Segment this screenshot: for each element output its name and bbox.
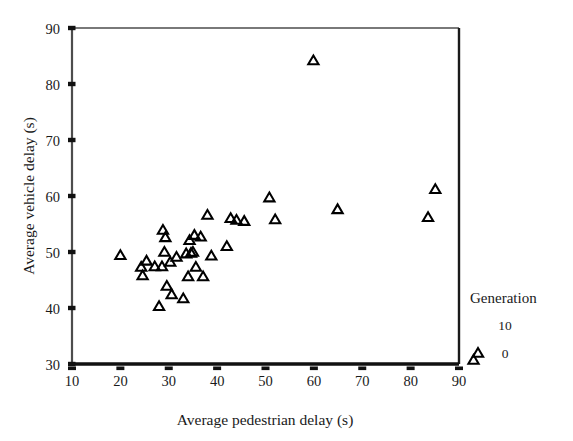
data-point-marker <box>264 193 274 202</box>
data-point-marker <box>162 281 172 290</box>
y-tick-mark <box>68 306 76 310</box>
x-tick-label: 20 <box>113 373 128 389</box>
legend-entry-label-0: 0 <box>502 346 509 361</box>
data-point-marker <box>171 252 181 261</box>
y-tick-mark <box>68 26 76 30</box>
y-tick-label: 90 <box>46 21 61 37</box>
data-point-marker <box>270 214 280 223</box>
x-tick-label: 70 <box>355 373 370 389</box>
data-point-marker <box>191 262 201 271</box>
data-point-marker <box>239 216 249 225</box>
y-tick-label: 60 <box>46 189 61 205</box>
data-point-marker <box>198 272 208 281</box>
data-point-marker <box>206 251 216 260</box>
chart-svg: 102030405060708090 30405060708090 Averag… <box>0 0 573 441</box>
x-tick-mark <box>262 367 270 371</box>
data-point-marker <box>183 272 193 281</box>
x-tick-label: 10 <box>65 373 80 389</box>
data-point-marker <box>178 293 188 302</box>
legend: Generation 10 0 <box>470 290 537 361</box>
x-tick-mark <box>455 367 463 371</box>
data-point-marker <box>202 210 212 219</box>
data-point-marker <box>222 241 232 250</box>
legend-triangle-glyph <box>473 348 483 357</box>
y-tick-label: 80 <box>46 77 61 93</box>
data-point-marker <box>159 247 169 256</box>
data-point-marker <box>141 256 151 265</box>
y-tick-mark <box>68 194 76 198</box>
y-tick-mark <box>68 138 76 142</box>
x-tick-label: 50 <box>258 373 273 389</box>
data-point-marker <box>308 55 318 64</box>
plot-frame <box>72 28 459 364</box>
data-point-marker <box>423 212 433 221</box>
x-tick-mark <box>407 367 415 371</box>
x-tick-label: 30 <box>162 373 177 389</box>
x-axis-ticks: 102030405060708090 <box>65 367 467 390</box>
y-tick-label: 70 <box>46 133 61 149</box>
y-tick-mark <box>68 82 76 86</box>
scatter-chart: 102030405060708090 30405060708090 Averag… <box>0 0 573 441</box>
data-point-marker <box>430 184 440 193</box>
x-tick-mark <box>116 367 124 371</box>
y-tick-label: 40 <box>46 301 61 317</box>
data-point-marker <box>332 204 342 213</box>
x-tick-label: 40 <box>210 373 225 389</box>
legend-entry-label-10: 10 <box>498 318 512 333</box>
y-tick-label: 30 <box>46 357 61 373</box>
y-axis-title: Average vehicle delay (s) <box>20 117 38 275</box>
data-point-marker <box>154 301 164 310</box>
y-tick-label: 50 <box>46 245 61 261</box>
x-tick-label: 90 <box>452 373 467 389</box>
x-tick-mark <box>213 367 221 371</box>
data-point-marker <box>115 250 125 259</box>
x-tick-mark <box>310 367 318 371</box>
x-tick-label: 60 <box>307 373 322 389</box>
legend-marker-triangle <box>473 348 483 357</box>
x-tick-label: 80 <box>403 373 418 389</box>
x-axis-title: Average pedestrian delay (s) <box>177 411 354 429</box>
y-tick-mark <box>68 250 76 254</box>
data-point-group <box>115 55 478 363</box>
x-tick-mark <box>68 367 76 371</box>
x-tick-mark <box>165 367 173 371</box>
y-tick-mark <box>68 362 76 366</box>
legend-title: Generation <box>470 290 537 306</box>
x-tick-mark <box>358 367 366 371</box>
